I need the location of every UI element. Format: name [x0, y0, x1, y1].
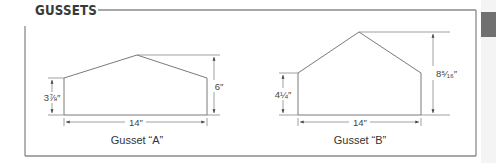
gusset-a-width-label: 14″ — [129, 117, 144, 128]
gussets-diagram: 3⅞″ 6″ 14″ Gusset “A” 4¼″ 8⁵⁄₁₆″ 14″ Gus… — [0, 0, 496, 163]
gusset-a-left-height-label: 3⅞″ — [44, 92, 61, 103]
gusset-b-peak-height-label: 8⁵⁄₁₆″ — [436, 68, 458, 79]
gusset-b-width-label: 14″ — [353, 117, 368, 128]
gusset-b-dimensions — [279, 32, 450, 126]
gusset-a-caption: Gusset “A” — [111, 134, 164, 146]
gusset-a-shape — [64, 55, 207, 115]
gusset-a-peak-height-label: 6″ — [215, 81, 224, 92]
gusset-b-shape — [298, 32, 421, 115]
gusset-b-caption: Gusset “B” — [334, 134, 387, 146]
gusset-b-left-height-label: 4¼″ — [275, 89, 292, 100]
